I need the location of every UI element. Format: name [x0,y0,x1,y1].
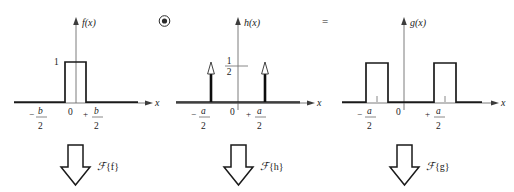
svg-text:{f}: {f} [106,161,119,172]
h-vertical-axis [235,17,241,110]
svg-text:2: 2 [227,67,232,77]
panel-g: 0 x g(x) − a 2 + a 2 ℱ [342,17,506,185]
f-origin-label: 0 [68,107,73,117]
panel-f: 1 0 x f(x) − b 2 + b 2 [14,17,160,185]
svg-text:b: b [38,106,43,116]
g-origin-label: 0 [396,107,401,117]
h-transform-arrow [224,145,253,185]
h-amplitude-tick: 1 2 [225,56,248,77]
f-tick-right: + b 2 [83,106,103,131]
svg-text:2: 2 [436,121,441,131]
svg-text:2: 2 [38,121,43,131]
svg-text:−: − [357,109,362,119]
svg-text:{g}: {g} [435,161,450,172]
g-tick-right: + a 2 [425,106,445,131]
svg-text:+: + [425,109,430,119]
f-function-label: f(x) [82,17,97,29]
h-origin-label: 0 [230,107,235,117]
f-axis-label-x: x [154,97,160,108]
g-tick-left: − a 2 [357,106,376,131]
g-transform-label: ℱ {g} [426,160,450,172]
h-transform-label: ℱ {h} [260,160,284,172]
equals-operator: = [322,15,328,27]
g-two-rect-pulses [342,63,482,102]
svg-text:2: 2 [367,121,372,131]
svg-text:=: = [322,15,328,27]
g-function-label: g(x) [410,17,427,29]
h-tick-left: − a 2 [191,106,210,131]
svg-text:−: − [191,109,196,119]
h-tick-right: + a 2 [246,106,266,131]
panel-h: 1 2 0 x h(x) − a [176,17,322,185]
h-axis-label-x: x [316,97,322,108]
f-transform-label: ℱ {f} [97,160,119,172]
h-impulse-right [262,62,269,102]
g-transform-arrow [390,145,419,185]
g-axis-label-x: x [500,97,506,108]
svg-text:2: 2 [94,121,99,131]
svg-text:a: a [257,106,262,116]
svg-text:{h}: {h} [269,161,284,172]
svg-text:a: a [201,106,206,116]
svg-text:a: a [367,106,372,116]
h-function-label: h(x) [244,17,261,29]
svg-text:a: a [436,106,441,116]
g-vertical-axis [401,17,407,110]
f-transform-arrow [61,145,90,185]
svg-text:−: − [29,109,34,119]
svg-text:+: + [246,109,251,119]
convolution-figure: 1 0 x f(x) − b 2 + b 2 [0,0,514,192]
svg-text:2: 2 [201,121,206,131]
f-tick-left: − b 2 [29,106,47,131]
svg-text:1: 1 [227,56,232,66]
convolution-operator-icon: ⊛ [159,14,170,26]
f-amplitude-label: 1 [54,57,59,67]
f-vertical-axis [73,17,79,103]
svg-text:b: b [94,106,99,116]
svg-text:2: 2 [257,121,262,131]
h-impulse-left [208,62,215,102]
svg-text:+: + [83,109,88,119]
